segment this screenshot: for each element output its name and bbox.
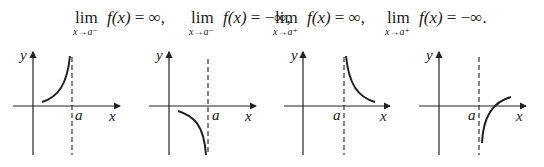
asymptote-label: a [333,107,341,123]
y-axis-label: y [18,47,27,63]
function-curve [482,97,511,143]
graph-4: y a x [419,47,526,155]
function-curve [178,111,206,155]
y-axis-label: y [424,47,433,63]
x-axis-label: x [515,108,523,124]
graph-1: y a x [13,47,120,155]
y-axis-label: y [289,47,298,63]
limit-graphs: y a x y a x y a x y a x [0,0,544,167]
asymptote-label: a [75,107,83,123]
x-axis-label: x [379,108,387,124]
function-curve [346,56,375,102]
y-axis-label: y [154,47,163,63]
asymptote-label: a [468,107,476,123]
graph-3: y a x [284,47,390,155]
function-curve [42,56,70,102]
x-axis-label: x [244,108,252,124]
x-axis-label: x [108,108,116,124]
graph-2: y a x [149,47,256,155]
asymptote-label: a [212,107,220,123]
